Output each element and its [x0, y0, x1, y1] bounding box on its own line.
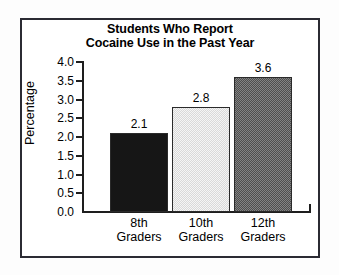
bar-value-label-10th-graders: 2.8 [172, 92, 230, 104]
x-category-12th-line-2: Graders [233, 231, 293, 245]
chart-title-line-2: Cocaine Use in the Past Year [40, 36, 300, 50]
y-tick-label-3-5: 3.5 [44, 75, 74, 87]
y-tick-label-1-5: 1.5 [44, 150, 74, 162]
y-axis-label: Percentage [23, 58, 37, 168]
bar-10th-graders[interactable] [172, 107, 230, 212]
x-category-10th-line-1: 10th [171, 217, 231, 231]
x-category-label-12th-graders: 12th Graders [233, 217, 293, 244]
x-category-label-10th-graders: 10th Graders [171, 217, 231, 244]
bar-value-label-12th-graders: 3.6 [234, 62, 292, 74]
bar-8th-graders[interactable] [110, 133, 168, 212]
x-category-12th-line-1: 12th [233, 217, 293, 231]
y-tick-label-2-0: 2.0 [44, 131, 74, 143]
y-tick-label-0-5: 0.5 [44, 187, 74, 199]
y-tick-label-4-0: 4.0 [44, 56, 74, 68]
y-tick-label-3-0: 3.0 [44, 94, 74, 106]
x-category-8th-line-2: Graders [109, 231, 169, 245]
y-tick-label-0-0: 0.0 [44, 206, 74, 218]
bar-12th-graders[interactable] [234, 77, 292, 212]
chart-title: Students Who Report Cocaine Use in the P… [40, 22, 300, 50]
x-category-label-8th-graders: 8th Graders [109, 217, 169, 244]
x-category-10th-line-2: Graders [171, 231, 231, 245]
y-tick-label-1-0: 1.0 [44, 169, 74, 181]
bar-value-label-8th-graders: 2.1 [110, 118, 168, 130]
y-tick-label-2-5: 2.5 [44, 112, 74, 124]
chart-figure: Students Who Report Cocaine Use in the P… [0, 0, 339, 275]
bar-series [84, 62, 310, 212]
x-category-8th-line-1: 8th [109, 217, 169, 231]
chart-title-line-1: Students Who Report [40, 22, 300, 36]
